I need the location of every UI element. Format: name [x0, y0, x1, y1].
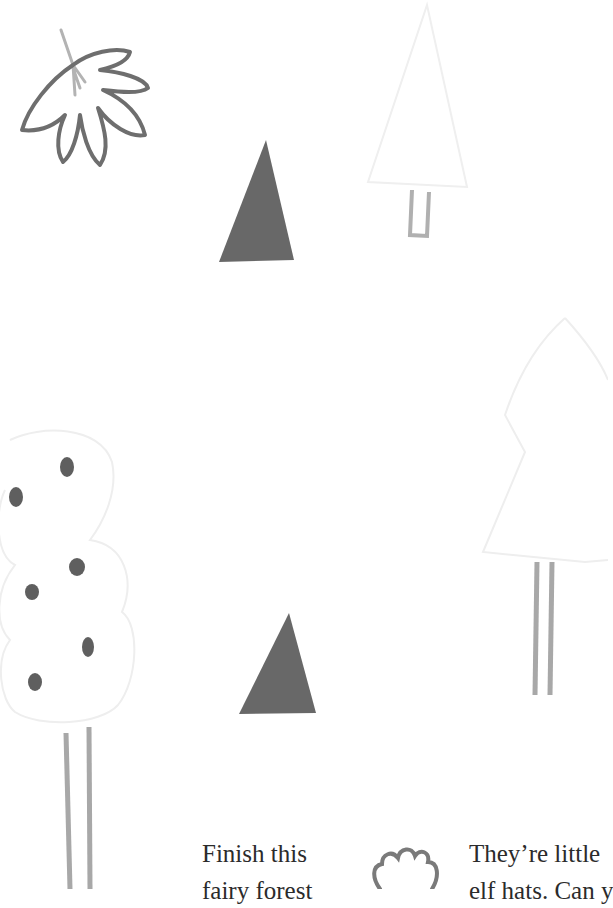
- text-line: Finish this: [202, 835, 312, 872]
- tree-right: [483, 318, 608, 695]
- dot: [60, 457, 74, 477]
- tree-outline: [483, 318, 608, 562]
- dot: [69, 558, 85, 576]
- tree-outline: [368, 5, 467, 187]
- instruction-text-right: They’re little elf hats. Can y: [469, 835, 613, 908]
- dot: [25, 584, 39, 600]
- leaf-outline: [22, 50, 148, 165]
- tree-trunk-left: [535, 562, 537, 695]
- dot: [28, 673, 42, 691]
- dot: [82, 637, 94, 657]
- tree-top-right: [368, 5, 467, 236]
- instruction-text-left: Finish this fairy forest: [202, 835, 312, 908]
- text-line: elf hats. Can y: [469, 872, 613, 908]
- elf-hat-triangle-bottom: [239, 613, 316, 714]
- leaf-icon: [22, 30, 148, 165]
- tree-trunk: [410, 190, 429, 236]
- tree-left: [0, 431, 134, 889]
- text-line: They’re little: [469, 835, 613, 872]
- tree-trunk-right: [550, 562, 552, 695]
- tree-trunk-left: [66, 733, 70, 889]
- tree-trunk-right: [89, 727, 90, 889]
- text-line: fairy forest: [202, 872, 312, 908]
- flower-icon: [374, 849, 437, 889]
- dot: [9, 487, 23, 507]
- leaf-stem: [61, 30, 85, 95]
- elf-hat-triangle-top: [219, 140, 294, 262]
